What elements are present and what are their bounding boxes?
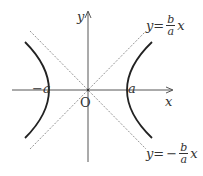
asymptote-negative-eq: = xyxy=(153,147,164,160)
asymptote-negative-sign: − xyxy=(166,147,177,160)
x-axis-label: x xyxy=(165,95,172,108)
asymptote-positive-lhs: y xyxy=(146,19,153,32)
vertex-right-label: a xyxy=(128,82,136,95)
asymptote-positive-label: y = b a x xyxy=(146,14,185,37)
origin-point xyxy=(87,89,89,91)
asymptote-positive-fraction: b a xyxy=(166,14,175,37)
asymptote-negative-fraction: b a xyxy=(179,142,188,165)
origin-label: O xyxy=(80,96,91,109)
asymptote-positive-eq: = xyxy=(153,19,164,32)
fraction-denominator: a xyxy=(180,154,187,165)
asymptote-negative-var: x xyxy=(190,147,197,160)
asymptote-positive-var: x xyxy=(177,19,184,32)
fraction-denominator: a xyxy=(168,26,175,37)
asymptote-negative-label: y = − b a x xyxy=(146,142,198,165)
vertex-left-label: −a xyxy=(32,82,51,95)
asymptote-negative-lhs: y xyxy=(146,147,153,160)
y-axis-label: y xyxy=(77,10,84,23)
